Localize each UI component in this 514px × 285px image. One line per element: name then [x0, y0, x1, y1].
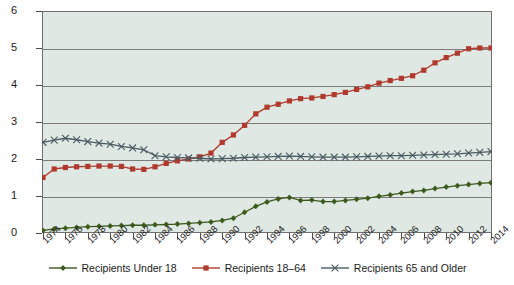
legend-label: Recipients 65 and Older: [354, 262, 467, 274]
data-point-square: [343, 90, 348, 95]
legend-item[interactable]: Recipients 65 and Older: [320, 262, 467, 274]
legend-swatch-square: [191, 262, 221, 274]
data-point-diamond: [231, 215, 237, 221]
data-point-square: [388, 78, 393, 83]
data-point-diamond: [354, 196, 360, 202]
legend-swatch-cross: [320, 262, 350, 274]
data-point-diamond: [376, 193, 382, 199]
data-point-diamond: [60, 265, 66, 271]
series-layer: [42, 11, 492, 233]
data-point-square: [264, 105, 269, 110]
data-point-diamond: [432, 186, 438, 192]
data-point-square: [287, 98, 292, 103]
data-point-square: [85, 164, 90, 169]
data-point-square: [242, 123, 247, 128]
data-point-square: [208, 150, 213, 155]
series-line: [43, 48, 491, 178]
data-point-square: [141, 167, 146, 172]
y-axis-tick-label: 5: [0, 42, 17, 53]
data-point-square: [488, 45, 492, 50]
data-point-diamond: [219, 217, 225, 223]
data-point-square: [220, 140, 225, 145]
data-point-square: [432, 60, 437, 65]
data-point-diamond: [253, 203, 259, 209]
data-point-square: [410, 73, 415, 78]
data-point-square: [298, 96, 303, 101]
chart-container: Number (in thousands) 0123456 1974197619…: [0, 0, 514, 285]
data-point-square: [152, 164, 157, 169]
data-point-diamond: [130, 222, 136, 228]
data-point-diamond: [264, 199, 270, 205]
data-point-square: [231, 132, 236, 137]
legend-label: Recipients 18–64: [225, 262, 306, 274]
y-axis-tick-label: 0: [0, 227, 17, 238]
data-point-square: [332, 92, 337, 97]
y-axis-tick-label: 3: [0, 116, 17, 127]
data-point-square: [63, 165, 68, 170]
data-point-square: [253, 111, 258, 116]
data-point-diamond: [399, 190, 405, 196]
chart-legend: Recipients Under 18Recipients 18–64Recip…: [0, 262, 514, 274]
data-point-diamond: [466, 182, 472, 188]
data-point-diamond: [175, 221, 181, 227]
data-point-square: [444, 55, 449, 60]
data-point-diamond: [320, 199, 326, 205]
data-point-square: [477, 45, 482, 50]
data-point-square: [42, 175, 46, 180]
data-point-square: [96, 163, 101, 168]
series-cross: [42, 135, 492, 163]
data-point-diamond: [410, 189, 416, 195]
data-point-diamond: [455, 183, 461, 189]
data-point-diamond: [63, 225, 69, 231]
series-square: [42, 45, 492, 180]
data-point-square: [421, 68, 426, 73]
legend-label: Recipients Under 18: [82, 262, 177, 274]
data-point-square: [365, 84, 370, 89]
data-point-diamond: [421, 187, 427, 193]
data-point-diamond: [152, 222, 158, 228]
data-point-diamond: [365, 195, 371, 201]
legend-item[interactable]: Recipients Under 18: [48, 262, 177, 274]
y-axis-tick-label: 1: [0, 190, 17, 201]
data-point-square: [203, 265, 208, 270]
data-point-square: [119, 164, 124, 169]
data-point-diamond: [287, 194, 293, 200]
data-point-square: [309, 95, 314, 100]
data-point-square: [164, 161, 169, 166]
data-point-diamond: [477, 180, 483, 186]
data-point-square: [52, 166, 57, 171]
data-point-square: [108, 163, 113, 168]
data-point-square: [320, 94, 325, 99]
data-point-square: [130, 166, 135, 171]
data-point-diamond: [85, 224, 91, 230]
y-axis-tick-mark: [36, 233, 42, 234]
y-axis-tick-label: 6: [0, 5, 17, 16]
data-point-diamond: [275, 196, 281, 202]
series-line: [43, 138, 491, 159]
data-point-square: [74, 164, 79, 169]
data-point-diamond: [331, 199, 337, 205]
data-point-diamond: [443, 184, 449, 190]
legend-item[interactable]: Recipients 18–64: [191, 262, 306, 274]
data-point-diamond: [242, 209, 248, 215]
data-point-square: [376, 81, 381, 86]
y-axis-tick-label: 4: [0, 79, 17, 90]
data-point-diamond: [197, 220, 203, 226]
data-point-diamond: [488, 180, 492, 186]
data-point-diamond: [309, 197, 315, 203]
y-axis-tick-label: 2: [0, 153, 17, 164]
data-point-square: [354, 87, 359, 92]
series-diamond: [42, 180, 492, 233]
data-point-diamond: [343, 197, 349, 203]
data-point-square: [466, 46, 471, 51]
data-point-square: [399, 76, 404, 81]
data-point-diamond: [298, 197, 304, 203]
data-point-diamond: [107, 223, 113, 229]
data-point-square: [276, 102, 281, 107]
legend-swatch-diamond: [48, 262, 78, 274]
data-point-square: [455, 51, 460, 56]
data-point-diamond: [387, 192, 393, 198]
